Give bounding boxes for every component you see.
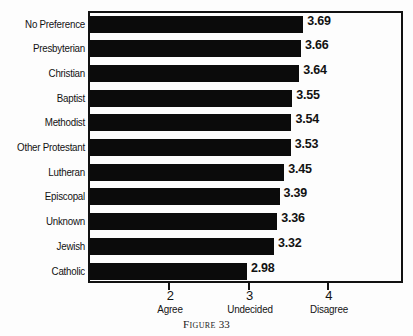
figure-33-chart: No PreferencePresbyterianChristianBaptis… — [0, 0, 413, 336]
value-axis: 2Agree3Undecided4Disagree — [0, 0, 413, 336]
bar-value-label: 2.98 — [251, 262, 275, 275]
caption-word: Figure — [183, 318, 216, 330]
axis-tick-word-label: Disagree — [287, 303, 372, 315]
axis-tick-word-label: Agree — [128, 303, 213, 315]
bar-value-label: 3.36 — [281, 212, 305, 225]
figure-caption: Figure 33 — [0, 318, 413, 331]
bar-value-label: 3.55 — [296, 89, 320, 102]
bar-value-label: 3.39 — [284, 187, 308, 200]
bar-value-label: 3.45 — [288, 163, 312, 176]
axis-tick-number: 2 — [155, 288, 185, 303]
bar-value-label: 3.53 — [295, 138, 319, 151]
caption-number: 33 — [219, 318, 230, 330]
axis-tick-number: 3 — [235, 288, 265, 303]
bar-value-label: 3.69 — [307, 15, 331, 28]
bar-value-label: 3.54 — [295, 113, 319, 126]
bar-value-label: 3.64 — [303, 64, 327, 77]
bar-value-label: 3.66 — [305, 39, 329, 52]
axis-tick-number: 4 — [314, 288, 344, 303]
axis-tick-word-label: Undecided — [207, 303, 292, 315]
bar-value-label: 3.32 — [278, 237, 302, 250]
